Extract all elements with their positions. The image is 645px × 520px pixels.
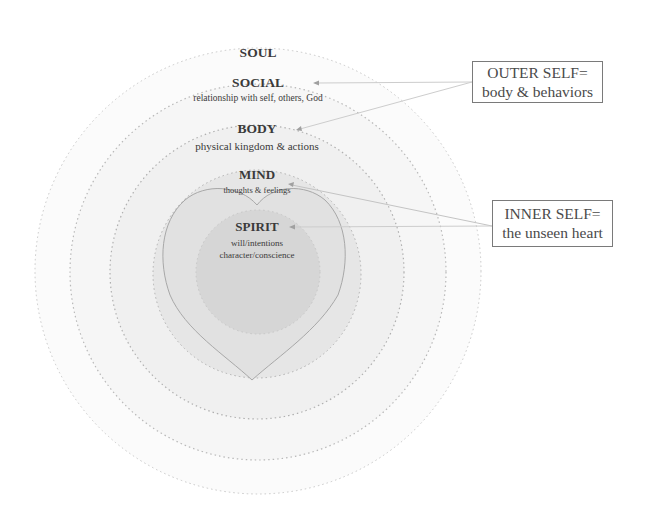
inner-self-heading: INNER SELF= [493, 204, 612, 223]
outer-self-description: body & behaviors [473, 82, 602, 101]
outer-self-callout: OUTER SELF= body & behaviors [472, 61, 603, 103]
mind-title: MIND [239, 167, 275, 183]
outer-self-heading: OUTER SELF= [473, 63, 602, 82]
spirit-subtitle-line-1: will/intentions [220, 237, 295, 249]
soul-title: SOUL [240, 45, 277, 61]
spirit-title: SPIRIT [235, 219, 278, 235]
social-subtitle: relationship with self, others, God [193, 93, 322, 103]
inner-self-description: the unseen heart [493, 223, 612, 242]
spirit-subtitle-line-2: character/conscience [220, 249, 295, 261]
spirit-subtitle: will/intentions character/conscience [220, 237, 295, 261]
inner-self-callout: INNER SELF= the unseen heart [492, 200, 613, 247]
body-subtitle: physical kingdom & actions [195, 140, 319, 152]
social-title: SOCIAL [232, 75, 284, 91]
body-title: BODY [237, 121, 276, 137]
mind-subtitle: thoughts & feelings [223, 185, 290, 195]
